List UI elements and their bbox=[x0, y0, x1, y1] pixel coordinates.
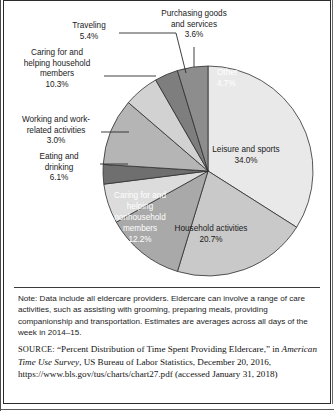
label-caring-household-line2: helping household bbox=[24, 59, 91, 68]
label-caring-nonhousehold-value: 12.2% bbox=[128, 235, 151, 244]
frame-left-rail bbox=[0, 0, 1, 411]
label-caring-nonhousehold-line3: nonhousehold bbox=[114, 213, 166, 222]
label-eating-value: 6.1% bbox=[50, 173, 69, 182]
label-purchasing-line1: Purchasing goods bbox=[161, 9, 227, 18]
label-other-line1: Other bbox=[217, 68, 238, 77]
label-caring-nonhousehold-line1: Caring for and bbox=[114, 191, 166, 200]
frame-right-rail bbox=[332, 0, 333, 404]
pie-chart-area: Purchasing goods and services 3.6% Trave… bbox=[4, 1, 330, 287]
label-other-value: 4.7% bbox=[217, 79, 236, 88]
label-household-line1: Household activities bbox=[175, 224, 248, 233]
label-eating-line1: Eating and bbox=[39, 152, 79, 161]
note-label: Note: bbox=[18, 294, 37, 303]
label-caring-household-line3: members bbox=[40, 69, 74, 78]
label-caring-household-value: 10.3% bbox=[45, 80, 68, 89]
label-traveling-line1: Traveling bbox=[72, 21, 106, 30]
source-text-part1: “Percent Distribution of Time Spent Prov… bbox=[57, 344, 279, 354]
label-leisure-value: 34.0% bbox=[234, 156, 257, 165]
figure-note: Note: Data include all eldercare provide… bbox=[18, 293, 316, 339]
note-text: Data include all eldercare providers. El… bbox=[18, 294, 308, 337]
label-working-line1: Working and work- bbox=[22, 115, 90, 124]
figure-page: Purchasing goods and services 3.6% Trave… bbox=[0, 0, 334, 411]
label-caring-nonhousehold-line4: members bbox=[123, 224, 157, 233]
label-household-value: 20.7% bbox=[199, 235, 222, 244]
label-traveling-value: 5.4% bbox=[80, 32, 99, 41]
label-caring-household-line1: Caring for and bbox=[31, 48, 83, 57]
pie-slices bbox=[103, 66, 313, 276]
pie-chart-svg: Purchasing goods and services 3.6% Trave… bbox=[4, 1, 330, 287]
leader-line-traveling bbox=[119, 33, 186, 73]
label-working-value: 3.0% bbox=[47, 136, 66, 145]
figure-source: SOURCE: “Percent Distribution of Time Sp… bbox=[18, 343, 318, 381]
label-eating-line2: drinking bbox=[45, 163, 74, 172]
label-leisure-line1: Leisure and sports bbox=[212, 145, 279, 154]
figure-divider bbox=[14, 287, 320, 288]
source-label: SOURCE: bbox=[18, 345, 55, 354]
label-caring-nonhousehold-line2: helping bbox=[127, 202, 154, 211]
frame-bottom-rail bbox=[0, 409, 334, 410]
label-purchasing-line2: and services bbox=[171, 20, 217, 29]
label-purchasing-value: 3.6% bbox=[185, 30, 204, 39]
label-working-line2: related activities bbox=[27, 126, 86, 135]
